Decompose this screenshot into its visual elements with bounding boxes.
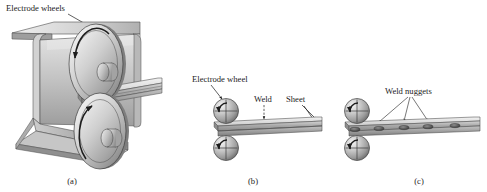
figure-canvas: Electrode wheels: [0, 0, 487, 192]
caption-c: (c): [414, 176, 424, 186]
electrode-wheel-upper-c: [345, 99, 370, 124]
wheel-upper-a-hub-face: [97, 63, 109, 81]
weld-nugget: [450, 124, 460, 128]
weld-nugget: [374, 126, 384, 130]
sheet-label: Sheet: [286, 94, 306, 104]
electrode-wheel-lower-a: [74, 93, 129, 169]
electrode-wheel-lower-c: [345, 136, 370, 161]
electrode-wheel-upper-b: [214, 99, 239, 124]
wheel-lower-a-hub-face: [101, 129, 113, 147]
electrode-wheel-leader: [211, 85, 222, 99]
panel-c: Weld nuggets: [345, 86, 481, 186]
weld-nuggets-leader-1: [379, 97, 408, 122]
weld-label: Weld: [254, 94, 273, 104]
caption-b: (b): [248, 176, 258, 186]
weld-nuggets-leader-3: [412, 97, 428, 121]
weld-nugget: [423, 125, 433, 129]
web-right-corner: [133, 34, 141, 127]
electrode-wheels-label: Electrode wheels: [6, 3, 66, 13]
upper-flange-top: [12, 22, 140, 34]
weld-nugget: [399, 126, 409, 130]
electrode-wheel-lower-b: [214, 136, 239, 161]
weld-nuggets-label: Weld nuggets: [385, 86, 432, 96]
weld-nuggets-leader-2: [404, 97, 410, 121]
electrode-wheel-upper-a: [69, 24, 126, 104]
figure-seam-welding: Electrode wheels: [0, 0, 487, 192]
caption-a: (a): [67, 176, 77, 186]
weld-nugget: [350, 127, 360, 131]
electrode-wheel-label: Electrode wheel: [192, 74, 248, 84]
panel-a: Electrode wheels: [6, 3, 162, 186]
panel-b: Electrode wheel Weld Sheet: [192, 74, 322, 186]
